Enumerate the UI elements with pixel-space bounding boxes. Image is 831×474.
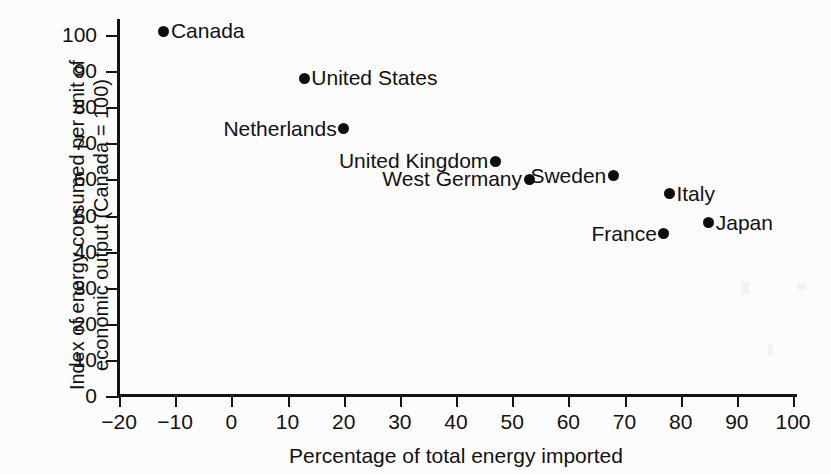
data-point[interactable]: [158, 26, 169, 37]
x-tick-mark: [231, 396, 233, 407]
x-tick-label: 60: [557, 411, 580, 432]
data-point[interactable]: [608, 170, 619, 181]
x-tick-label: −10: [157, 411, 193, 432]
x-tick-mark: [625, 396, 627, 407]
x-tick-mark: [793, 396, 795, 407]
data-point-label: Italy: [676, 183, 715, 204]
x-tick-mark: [568, 396, 570, 407]
x-tick-label: 0: [225, 411, 237, 432]
x-tick-mark: [175, 396, 177, 407]
data-point-label: Japan: [716, 212, 773, 233]
x-tick-mark: [681, 396, 683, 407]
chart-figure: 0102030405060708090100 −20−1001020304050…: [0, 0, 831, 474]
x-tick-label: 80: [669, 411, 692, 432]
x-tick-mark: [344, 396, 346, 407]
data-point[interactable]: [658, 228, 669, 239]
data-point-label: France: [591, 223, 656, 244]
data-point-label: United States: [311, 67, 437, 88]
x-tick-label: 10: [276, 411, 299, 432]
x-tick-label: 70: [613, 411, 636, 432]
data-point-label: Sweden: [530, 165, 606, 186]
data-point[interactable]: [338, 123, 349, 134]
data-point[interactable]: [490, 156, 501, 167]
x-tick-mark: [400, 396, 402, 407]
x-tick-label: 30: [388, 411, 411, 432]
x-tick-label: 20: [332, 411, 355, 432]
x-tick-mark: [512, 396, 514, 407]
x-tick-label: 50: [500, 411, 523, 432]
x-tick-mark: [119, 396, 121, 407]
plot-area: 0102030405060708090100 −20−1001020304050…: [119, 35, 793, 396]
y-axis-title: Index of energy consumed per unit of eco…: [65, 15, 113, 435]
data-point[interactable]: [703, 217, 714, 228]
x-tick-mark: [737, 396, 739, 407]
x-axis-title: Percentage of total energy imported: [119, 444, 793, 468]
x-tick-label: 90: [725, 411, 748, 432]
data-point-label: Netherlands: [223, 118, 336, 139]
x-tick-label: 100: [775, 411, 810, 432]
x-tick-mark: [456, 396, 458, 407]
data-point-label: West Germany: [382, 168, 522, 189]
x-tick-label: 40: [444, 411, 467, 432]
data-point[interactable]: [299, 73, 310, 84]
data-point[interactable]: [664, 188, 675, 199]
x-tick-mark: [288, 396, 290, 407]
data-point-label: Canada: [171, 20, 245, 41]
y-axis-line: [117, 19, 120, 398]
